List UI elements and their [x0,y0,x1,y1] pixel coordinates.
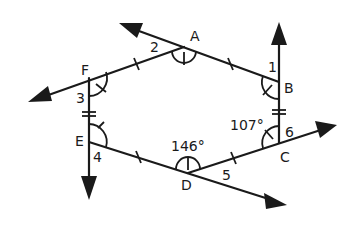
angle-label-6: 6 [285,124,294,140]
arrowhead-upper-left [119,23,143,38]
vertex-label-f: F [81,62,89,78]
arrowhead-right [315,121,337,138]
angle-measure-c: 107° [230,117,264,133]
arrowhead-up [271,22,287,45]
angle-tick-c [265,130,273,139]
vertex-label-b: B [284,80,294,96]
arrowhead-down [81,176,97,200]
angle-label-3: 3 [76,90,85,106]
vertex-label-c: C [280,149,290,165]
vertex-label-d: D [181,177,192,193]
angle-tick-e [98,122,104,128]
line-fa-extended [40,47,184,98]
angle-label-5: 5 [222,167,231,183]
angle-label-1: 1 [268,59,277,75]
angle-label-2: 2 [150,39,159,55]
line-dc-extended [188,127,330,173]
angle-label-4: 4 [93,149,102,165]
vertex-label-a: A [190,28,200,44]
arrowhead-left [28,86,52,102]
hexagon-diagram: A B C D E F 1 2 3 4 5 6 146° 107° [0,0,355,230]
arrowhead-lower-right [264,193,287,209]
vertex-label-e: E [75,133,84,149]
angle-measure-d: 146° [171,138,205,154]
